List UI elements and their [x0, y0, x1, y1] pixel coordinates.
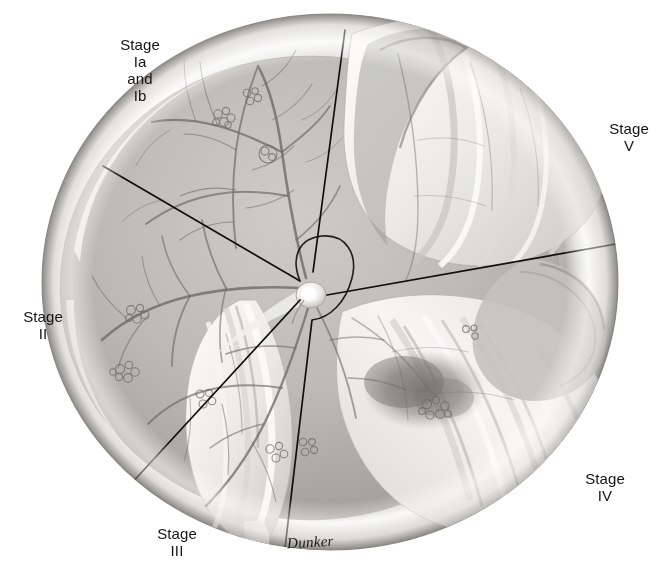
- stage-label-iv: Stage IV: [572, 470, 638, 504]
- stage-label-ia-ib: Stage Ia and Ib: [104, 36, 176, 104]
- stage-label-iii: Stage III: [144, 525, 210, 559]
- artist-signature: Dunker: [287, 533, 335, 552]
- retinal-stage-figure: Stage Ia and Ib Stage V Stage II Stage I…: [0, 0, 666, 576]
- stage-label-v: Stage V: [596, 120, 662, 154]
- retina-illustration-svg: [0, 0, 666, 576]
- stage-label-ii: Stage II: [10, 308, 76, 342]
